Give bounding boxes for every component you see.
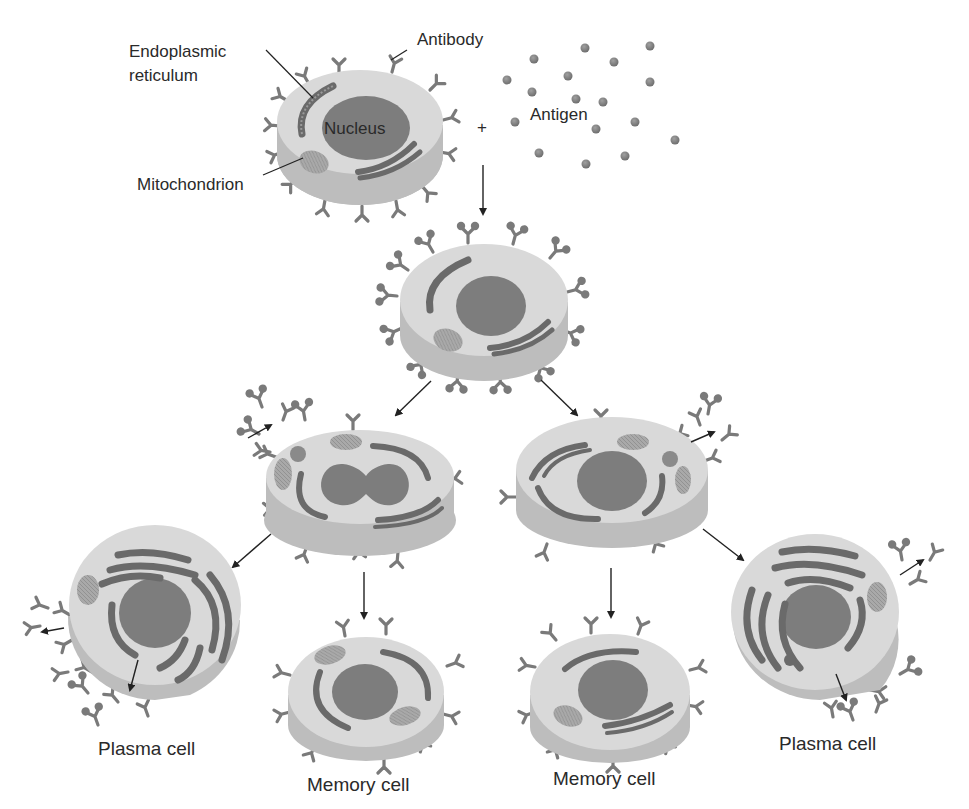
antigen-particle-icon (530, 55, 539, 64)
antigen-particle-icon (610, 58, 619, 67)
arrow-icon (703, 529, 743, 560)
dividing-cell-right (501, 391, 737, 560)
nucleus (781, 585, 851, 649)
plus-sign: + (477, 118, 487, 138)
mitochondrion (330, 434, 362, 450)
arrow-icon (541, 380, 577, 415)
antigen-particle-icon (581, 44, 590, 53)
antigen-particle-icon (631, 118, 640, 127)
mitochondrion (867, 582, 887, 612)
antigen-particle-icon (511, 118, 520, 127)
antigen-bound-b-cell (375, 221, 590, 395)
antigen-particle-icon (572, 95, 581, 104)
memory-cell-left-label: Memory cell (307, 774, 409, 796)
antigen-particle-icon (646, 42, 655, 51)
antibody-label: Antibody (417, 30, 483, 50)
plasma-cell-left-label: Plasma cell (98, 738, 195, 760)
antigen-particle-icon (621, 152, 630, 161)
arrow-icon (42, 628, 64, 632)
memory-cell-right (519, 618, 706, 772)
memory-cell-left (274, 619, 463, 773)
antigen-particle-icon (599, 98, 608, 107)
arrow-icon (233, 534, 271, 567)
mitochondrion (274, 458, 292, 490)
nucleus (332, 664, 398, 720)
antigen-label: Antigen (530, 105, 588, 125)
antigen-particle-icon (535, 149, 544, 158)
antigen-particle-icon (564, 72, 573, 81)
antigen-particle-icon (671, 136, 680, 145)
plasma-cell-right-label: Plasma cell (779, 733, 876, 755)
mitochondrion (675, 466, 691, 494)
nucleus (119, 578, 191, 648)
antigen-particle-icon (592, 125, 601, 134)
nucleus-label: Nucleus (324, 119, 385, 139)
arrow-icon (691, 432, 714, 442)
mitochondrion (77, 575, 99, 605)
mitochondrion-label: Mitochondrion (137, 175, 244, 195)
antigen-particle-icon (503, 76, 512, 85)
mitochondrion (617, 434, 649, 450)
arrow-icon (396, 381, 431, 415)
antigen-particle-icon (528, 88, 537, 97)
nucleus (577, 451, 647, 511)
nucleus (578, 660, 648, 720)
plasma-cell-left (24, 525, 241, 729)
dividing-cell-left (235, 383, 462, 567)
plasma-cell-right (731, 534, 943, 724)
nucleus (456, 276, 526, 336)
endoplasmic-reticulum-label: Endoplasmic (129, 42, 226, 62)
antigen-particle-icon (582, 160, 591, 169)
memory-cell-right-label: Memory cell (553, 768, 655, 790)
antigen-particle-icon (646, 78, 655, 87)
endoplasmic-reticulum-label-line2: reticulum (129, 66, 198, 86)
